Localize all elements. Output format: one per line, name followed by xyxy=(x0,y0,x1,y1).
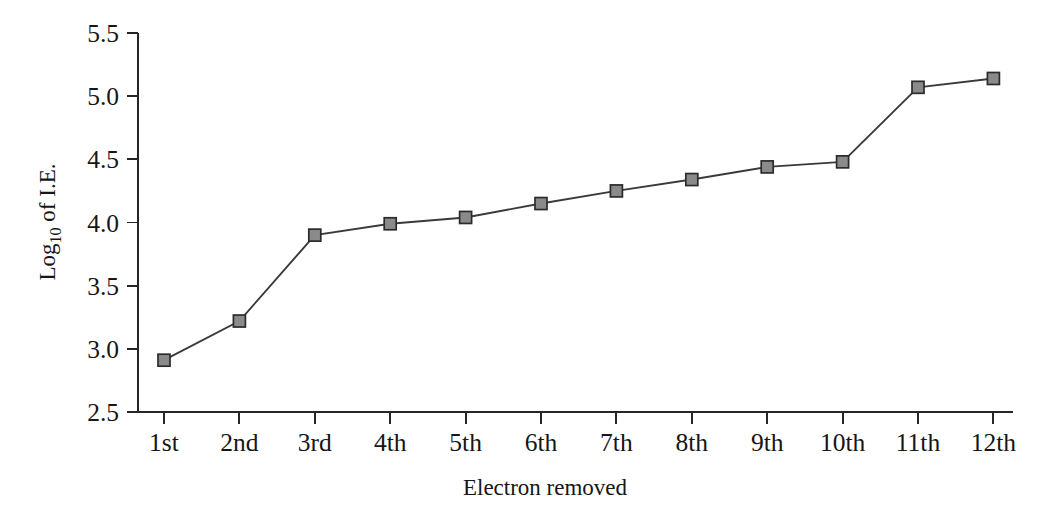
y-tick-label: 4.5 xyxy=(87,145,119,174)
series-line xyxy=(164,78,993,360)
x-axis-title: Electron removed xyxy=(463,475,628,500)
data-point-marker xyxy=(837,156,849,168)
y-tick-label: 2.5 xyxy=(87,398,119,427)
data-point-marker xyxy=(912,81,924,93)
y-axis-title: Log10 of I.E. xyxy=(35,164,64,281)
x-tick-label: 2nd xyxy=(220,428,259,457)
data-point-marker xyxy=(158,354,170,366)
axes xyxy=(138,33,1013,412)
data-point-marker xyxy=(535,198,547,210)
y-tick-label: 4.0 xyxy=(87,209,119,238)
x-tick-label: 9th xyxy=(751,428,784,457)
x-tick-label: 1st xyxy=(149,428,179,457)
y-tick-label: 5.5 xyxy=(87,19,119,48)
data-point-marker xyxy=(233,315,245,327)
data-point-marker xyxy=(686,174,698,186)
x-tick-label: 5th xyxy=(449,428,482,457)
x-tick-label: 6th xyxy=(525,428,558,457)
data-point-marker xyxy=(460,211,472,223)
x-tick-label: 4th xyxy=(374,428,407,457)
chart-container: 2.53.03.54.04.55.05.5 1st2nd3rd4th5th6th… xyxy=(0,0,1054,521)
data-point-marker xyxy=(309,229,321,241)
x-tick-label: 3rd xyxy=(298,428,332,457)
line-chart-svg: 2.53.03.54.04.55.05.5 1st2nd3rd4th5th6th… xyxy=(0,0,1054,521)
x-tick-label: 11th xyxy=(896,428,941,457)
data-point-marker xyxy=(384,218,396,230)
y-tick-label: 3.0 xyxy=(87,335,119,364)
data-point-marker xyxy=(761,161,773,173)
data-series xyxy=(158,72,999,366)
x-tick-label: 12th xyxy=(971,428,1017,457)
y-tick-label: 5.0 xyxy=(87,82,119,111)
data-point-marker xyxy=(610,185,622,197)
data-point-marker xyxy=(987,72,999,84)
data-markers xyxy=(158,72,999,366)
y-axis-ticks: 2.53.03.54.04.55.05.5 xyxy=(87,19,138,427)
x-tick-label: 7th xyxy=(600,428,633,457)
x-tick-label: 8th xyxy=(676,428,709,457)
y-tick-label: 3.5 xyxy=(87,272,119,301)
x-tick-label: 10th xyxy=(820,428,866,457)
x-axis-ticks: 1st2nd3rd4th5th6th7th8th9th10th11th12th xyxy=(149,412,1016,457)
